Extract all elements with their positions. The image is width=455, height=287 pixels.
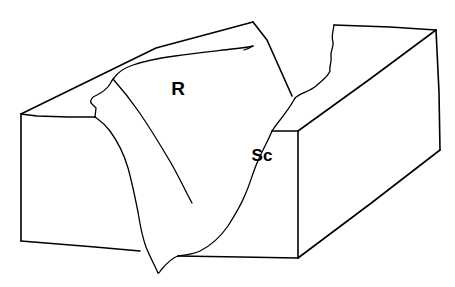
right-gully-line bbox=[295, 25, 334, 98]
right-block-top-diagonal bbox=[298, 30, 436, 131]
right-block-bottom-diagonal bbox=[298, 150, 440, 258]
stream-channel-line bbox=[178, 98, 295, 256]
right-block-right-edge bbox=[436, 30, 440, 150]
left-notch-step-line bbox=[91, 78, 114, 117]
upper-ridge-back-contour bbox=[114, 46, 253, 78]
ridge-right-edge bbox=[253, 22, 292, 96]
top-left-crest-edge bbox=[21, 22, 253, 114]
block-diagram-figure: R Sc bbox=[0, 0, 455, 287]
block-diagram-canvas: R Sc bbox=[0, 0, 455, 287]
valley-v-notch-line bbox=[158, 256, 178, 273]
right-block-far-top-edge bbox=[334, 25, 436, 30]
label-scarp: Sc bbox=[252, 146, 273, 165]
front-bottom-edge bbox=[178, 256, 298, 258]
left-face-bottom-edge bbox=[21, 241, 140, 251]
label-ridge: R bbox=[171, 78, 185, 99]
left-face-top-edge bbox=[21, 114, 95, 117]
